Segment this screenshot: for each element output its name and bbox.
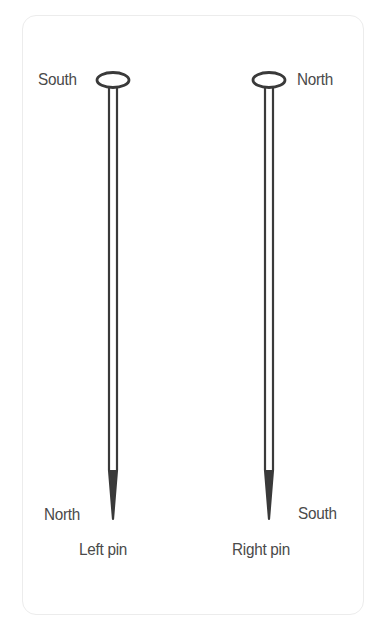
left-pin-caption: Left pin [79,541,127,558]
left-pin [97,73,129,520]
left-pin-shaft [109,88,117,519]
left-pin-tip-label: North [44,506,80,523]
left-pin-head-label: South [38,71,77,88]
left-pin-head-icon [97,73,129,88]
right-pin [253,73,285,520]
right-pin-tip-label: South [298,505,337,522]
right-pin-head-label: North [297,71,333,88]
right-pin-head-icon [253,73,285,88]
pins-diagram [0,0,382,633]
right-pin-shaft [265,88,273,519]
right-pin-caption: Right pin [232,541,290,558]
